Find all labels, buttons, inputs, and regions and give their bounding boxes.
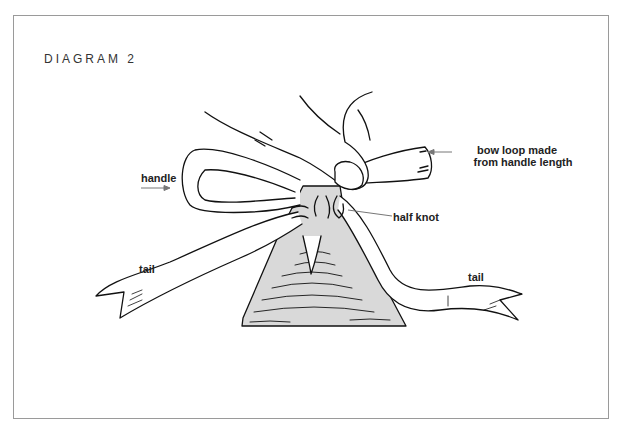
label-tail-right: tail [468, 271, 484, 283]
handle-loop [182, 149, 300, 212]
label-bow-loop-line2: from handle length [458, 156, 588, 168]
label-half-knot: half knot [393, 211, 439, 223]
label-tail-left: tail [139, 263, 155, 275]
label-bow-loop-line1: bow loop made [452, 144, 582, 156]
label-bow-loop: bow loop made from handle length [458, 144, 588, 168]
label-handle: handle [141, 172, 176, 184]
bow-tying-illustration [0, 0, 629, 435]
